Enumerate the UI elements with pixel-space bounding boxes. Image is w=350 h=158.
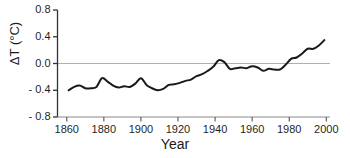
y-tick-label: 0.4 [2,31,51,42]
temperature-anomaly-chart: ΔT (°C) Year - 0.8- 0.40.00.40.8 1860188… [0,0,350,158]
x-tick-label: 1920 [158,124,198,135]
temperature-anomaly-line [69,40,325,90]
x-tick-label: 1960 [232,124,272,135]
y-tick-label: - 0.8 [2,111,51,122]
x-tick-label: 1900 [121,124,161,135]
x-tick-label: 1980 [269,124,309,135]
y-tick-label: 0.0 [2,58,51,69]
x-tick-label: 1860 [47,124,87,135]
x-tick-label: 2000 [306,124,346,135]
y-tick-label: - 0.4 [2,84,51,95]
y-tick-label: 0.8 [2,4,51,15]
x-tick-label: 1940 [195,124,235,135]
x-tick-label: 1880 [84,124,124,135]
x-axis-title: Year [0,136,350,152]
y-axis-title: ΔT (°C) [7,4,22,84]
